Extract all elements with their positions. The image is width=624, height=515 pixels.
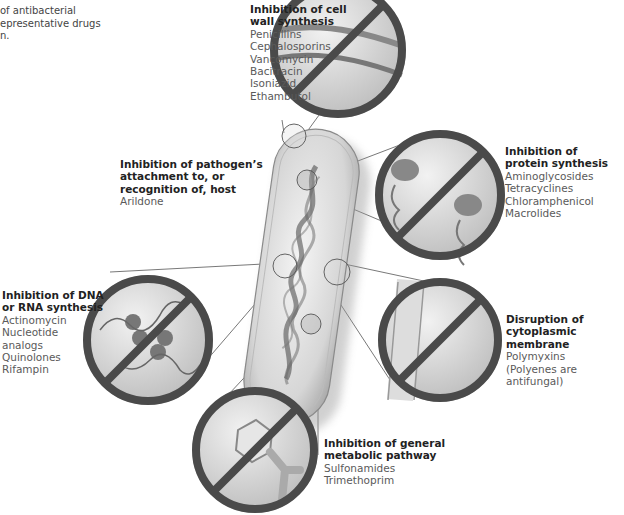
prohibit-metabolic	[192, 387, 318, 513]
label-cell-wall: Inhibition of cell wall synthesis Penici…	[250, 3, 347, 102]
prohibit-protein	[375, 130, 505, 265]
label-dna-rna: Inhibition of DNA or RNA synthesis Actin…	[2, 289, 104, 376]
prohibit-membrane	[378, 278, 502, 402]
intro-text: of antibacterial epresentative drugs n.	[0, 5, 101, 43]
label-metabolic: Inhibition of general metabolic pathway …	[324, 437, 445, 487]
label-protein: Inhibition of protein synthesis Aminogly…	[505, 145, 608, 219]
label-attachment: Inhibition of pathogen’s attachment to, …	[120, 158, 263, 208]
label-membrane: Disruption of cytoplasmic membrane Polym…	[506, 313, 624, 387]
